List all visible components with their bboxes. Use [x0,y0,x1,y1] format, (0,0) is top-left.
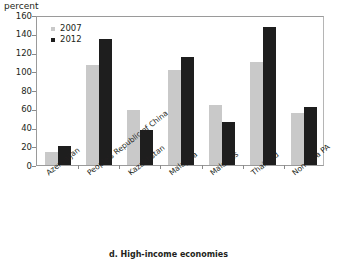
y-tick-mark [32,16,36,17]
y-axis-unit-label: percent [4,1,38,11]
y-tick-label: 40 [2,124,32,133]
x-tick-mark [160,165,161,169]
y-tick-mark [32,91,36,92]
y-tick-mark [32,166,36,167]
legend-swatch-icon [51,27,55,31]
figure-caption: d. High-income economies [0,250,337,259]
x-tick-mark [78,165,79,169]
legend-swatch-icon [51,38,55,42]
legend-label: 2007 [60,23,82,34]
legend-label: 2012 [60,34,82,45]
bar [168,70,181,165]
bar [263,27,276,165]
bar [250,62,263,165]
plot-area: 20072012 [36,16,324,166]
bar [86,65,99,165]
y-tick-mark [32,110,36,111]
bar [209,105,222,165]
bar [99,39,112,165]
y-tick-label: 160 [2,12,32,21]
chart-legend: 20072012 [51,23,82,45]
bar [291,113,304,165]
x-tick-mark [243,165,244,169]
y-tick-label: 0 [2,162,32,171]
y-tick-label: 120 [2,49,32,58]
x-tick-mark [119,165,120,169]
x-tick-mark [202,165,203,169]
y-tick-mark [32,147,36,148]
y-tick-label: 100 [2,68,32,77]
y-tick-mark [32,72,36,73]
y-tick-label: 20 [2,143,32,152]
bar [181,57,194,165]
chart-figure: percent 20072012 020406080100120140160 A… [0,0,337,261]
y-tick-label: 80 [2,87,32,96]
legend-item-2007: 2007 [51,23,82,34]
x-tick-mark [284,165,285,169]
y-tick-label: 140 [2,30,32,39]
y-tick-mark [32,35,36,36]
y-tick-mark [32,54,36,55]
y-tick-label: 60 [2,105,32,114]
legend-item-2012: 2012 [51,34,82,45]
y-tick-mark [32,129,36,130]
